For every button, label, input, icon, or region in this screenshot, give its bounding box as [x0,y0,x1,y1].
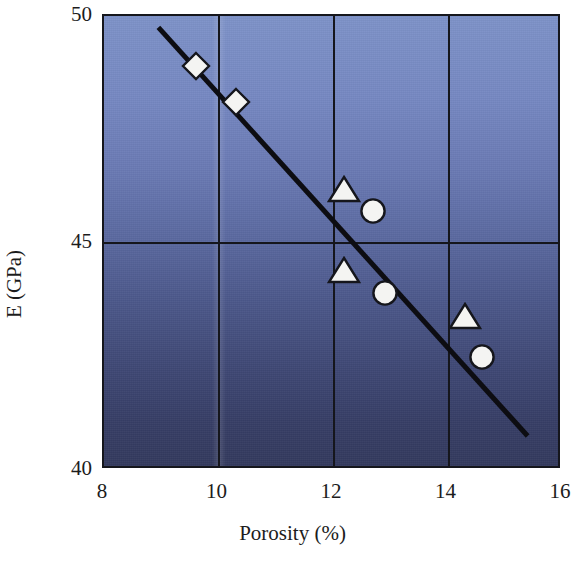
x-tick-label-10: 10 [206,481,227,502]
data-point-diamond [221,87,251,117]
data-point-circle [359,197,387,225]
x-tick-label-12: 12 [321,481,342,502]
data-point-diamond [181,51,211,81]
y-axis-title: E (GPa) [2,250,27,318]
x-tick-label-14: 14 [435,481,456,502]
trend-line [104,16,560,468]
porosity-modulus-scatter-chart: 50 45 40 8 10 12 14 16 Porosity (%) E (G… [0,0,585,568]
plot-area [102,14,560,468]
y-tick-label-45: 45 [71,231,92,252]
data-point-circle [468,343,496,371]
trend-line-segment [158,27,527,436]
data-point-triangle [327,174,361,204]
x-tick-label-16: 16 [550,481,571,502]
data-point-circle [371,279,399,307]
y-tick-label-50: 50 [71,4,92,25]
data-point-triangle [448,301,482,331]
x-axis-title: Porosity (%) [0,521,585,546]
data-point-triangle [327,255,361,285]
x-tick-label-8: 8 [97,481,108,502]
y-tick-label-40: 40 [71,458,92,479]
